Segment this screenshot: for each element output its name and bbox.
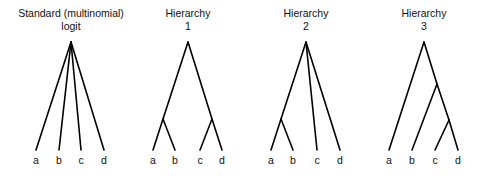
leaf-label-c: c (432, 154, 437, 166)
leaf-label-b: b (172, 154, 178, 166)
edge-bcd-b (412, 84, 437, 150)
diagram-title-line1: Hierarchy (284, 7, 330, 19)
edge-ab-a (271, 119, 281, 150)
leaf-label-d: d (101, 154, 107, 166)
diagram-title-line1: Standard (multinomial) (18, 7, 124, 19)
leaf-label-b: b (409, 154, 415, 166)
leaf-label-b: b (56, 154, 62, 166)
edge-ab-a (153, 119, 163, 150)
leaf-label-c: c (197, 154, 202, 166)
leaf-label-a: a (268, 154, 274, 166)
edge-ab-b (281, 119, 293, 150)
leaf-label-c: c (314, 154, 319, 166)
diagram-standard-logit: Standard (multinomial) logit a b c d (18, 7, 124, 166)
diagram-title-line1: Hierarchy (166, 7, 212, 19)
leaf-label-d: d (455, 154, 461, 166)
edge-root-ab (281, 42, 306, 119)
tree-diagrams: Standard (multinomial) logit a b c d Hie… (0, 0, 486, 176)
leaf-label-a: a (33, 154, 39, 166)
leaf-label-b: b (290, 154, 296, 166)
edge-root-cd (188, 42, 212, 119)
edge-cd-d (212, 119, 222, 150)
diagram-title-line2: 3 (421, 20, 427, 32)
edge-cd-c (200, 119, 212, 150)
diagram-title-line2: 2 (303, 20, 309, 32)
edge-cd-d (449, 120, 458, 150)
edge-bcd-cd (437, 84, 449, 120)
diagram-hierarchy-2: Hierarchy 2 a b c d (268, 7, 343, 166)
leaf-label-d: d (219, 154, 225, 166)
leaf-label-c: c (78, 154, 83, 166)
edge-cd-c (435, 120, 449, 150)
edge-root-bcd (424, 42, 437, 84)
edge-ab-b (163, 119, 175, 150)
diagram-hierarchy-3: Hierarchy 3 a b c d (386, 7, 461, 166)
diagram-title-line2: logit (61, 20, 80, 32)
leaf-label-d: d (337, 154, 343, 166)
diagram-title-line1: Hierarchy (402, 7, 448, 19)
leaf-label-a: a (386, 154, 392, 166)
diagram-title-line2: 1 (185, 20, 191, 32)
diagram-hierarchy-1: Hierarchy 1 a b c d (150, 7, 225, 166)
edge-root-ab (163, 42, 188, 119)
leaf-label-a: a (150, 154, 156, 166)
